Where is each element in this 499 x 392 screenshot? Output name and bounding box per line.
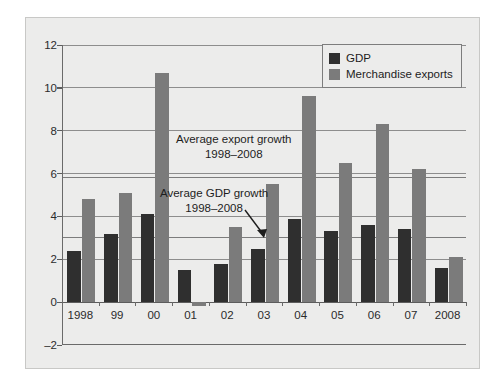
chart-legend: GDP Merchandise exports [322, 44, 462, 88]
x-tick-mark-2008 [429, 302, 430, 306]
bar-merchandise-exports-01 [192, 302, 206, 306]
y-tick-mark-12 [57, 45, 62, 46]
bar-gdp-99 [104, 234, 118, 303]
bar-merchandise-exports-07 [412, 169, 426, 302]
legend-label-gdp: GDP [346, 52, 371, 64]
x-tick-label-03: 03 [258, 309, 271, 321]
x-tick-label-05: 05 [331, 309, 344, 321]
x-tick-mark-07 [393, 302, 394, 306]
annotation-export-line2: 1998–2008 [176, 147, 292, 162]
gridline-6 [63, 173, 466, 174]
bar-merchandise-exports-05 [339, 163, 353, 302]
x-tick-mark-99 [99, 302, 100, 306]
x-tick-label-2008: 2008 [435, 309, 461, 321]
y-tick-mark-4 [57, 216, 62, 217]
annotation-arrow-icon [243, 208, 273, 242]
legend-swatch-merchandise-exports-icon [329, 69, 340, 80]
bar-gdp-01 [178, 270, 192, 302]
x-tick-label-04: 04 [294, 309, 307, 321]
bar-gdp-07 [398, 229, 412, 302]
x-tick-mark-01 [172, 302, 173, 306]
x-tick-mark-03 [246, 302, 247, 306]
y-tick-label-12: 12 [44, 39, 57, 51]
annotation-export-line1: Average export growth [176, 132, 292, 147]
bar-merchandise-exports-99 [119, 193, 133, 302]
bar-gdp-04 [288, 219, 302, 303]
y-tick-mark-2 [57, 259, 62, 260]
bar-merchandise-exports-02 [229, 227, 243, 302]
x-tick-mark-1998 [62, 302, 63, 306]
y-tick-mark-8 [57, 130, 62, 131]
bar-gdp-03 [251, 249, 265, 303]
x-tick-label-07: 07 [405, 309, 418, 321]
reference-line-average-export-growth [63, 177, 466, 178]
x-tick-label-06: 06 [368, 309, 381, 321]
y-axis: –2024681012 [25, 0, 57, 392]
y-tick-mark--2 [57, 345, 62, 346]
bar-merchandise-exports-1998 [82, 199, 96, 302]
x-tick-label-02: 02 [221, 309, 234, 321]
bar-gdp-02 [214, 264, 228, 303]
legend-item-gdp: GDP [329, 50, 453, 66]
legend-swatch-gdp-icon [329, 53, 340, 64]
bar-gdp-06 [361, 225, 375, 302]
x-tick-mark-06 [356, 302, 357, 306]
y-tick-label-10: 10 [44, 82, 57, 94]
legend-label-merchandise-exports: Merchandise exports [346, 68, 453, 80]
x-tick-mark-05 [319, 302, 320, 306]
bar-merchandise-exports-06 [376, 124, 390, 302]
x-tick-label-00: 00 [147, 309, 160, 321]
bar-gdp-05 [324, 231, 338, 302]
x-tick-mark-end [466, 302, 467, 306]
x-tick-mark-02 [209, 302, 210, 306]
y-tick-mark-6 [57, 173, 62, 174]
annotation-average-export-growth: Average export growth 1998–2008 [176, 132, 292, 162]
bar-merchandise-exports-04 [302, 96, 316, 302]
annotation-gdp-line1: Average GDP growth [160, 186, 268, 201]
x-tick-label-99: 99 [111, 309, 124, 321]
x-tick-label-1998: 1998 [68, 309, 94, 321]
bar-gdp-1998 [67, 251, 81, 302]
legend-item-merchandise-exports: Merchandise exports [329, 66, 453, 82]
chart-figure: –2024681012 19989900010203040506072008 A… [0, 0, 499, 392]
bar-gdp-00 [141, 214, 155, 302]
x-tick-mark-04 [282, 302, 283, 306]
x-tick-mark-00 [135, 302, 136, 306]
bar-merchandise-exports-2008 [449, 257, 463, 302]
y-tick-mark-10 [57, 87, 62, 88]
bar-gdp-2008 [435, 268, 449, 302]
y-tick-label--2: –2 [44, 339, 57, 351]
x-tick-label-01: 01 [184, 309, 197, 321]
